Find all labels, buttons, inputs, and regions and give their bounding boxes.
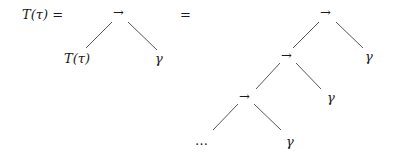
right-tree-level1-gamma: γ	[327, 91, 335, 104]
edge-r0-left	[293, 22, 319, 48]
edge-left-root-to-right	[128, 22, 157, 50]
right-tree-level0-gamma: γ	[365, 50, 373, 63]
edge-r1-left	[256, 63, 280, 89]
edge-r2-left	[213, 104, 238, 130]
edge-r1-right	[296, 63, 321, 89]
right-tree-level2-arrow: →	[239, 90, 250, 103]
left-tree-left-child: T(τ)	[64, 52, 90, 65]
left-tree-right-child: γ	[155, 52, 163, 65]
equals-sign: =	[180, 8, 191, 21]
edge-left-root-to-left	[86, 22, 112, 48]
equation-lhs: T(τ) =	[22, 8, 63, 21]
edge-r0-right	[336, 22, 363, 48]
right-tree-level1-arrow: →	[281, 49, 292, 62]
edge-r2-right	[254, 104, 281, 130]
right-tree-ellipsis: …	[195, 134, 208, 147]
tree-edges	[0, 0, 393, 153]
left-tree-root-arrow: →	[113, 6, 124, 19]
right-tree-level0-arrow: →	[320, 6, 331, 19]
right-tree-level2-gamma: γ	[286, 135, 294, 148]
